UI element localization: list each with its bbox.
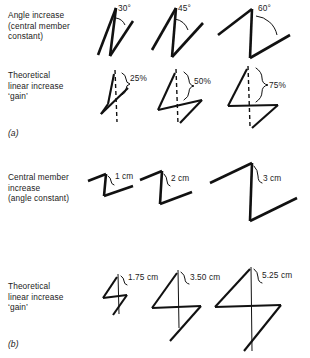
upper-arm-25 bbox=[108, 74, 114, 104]
cross-arm-50 bbox=[158, 100, 202, 110]
upper-arm-1cm bbox=[88, 174, 106, 181]
lower-arm-525cm bbox=[244, 305, 281, 351]
figure-label-member-3cm: 3 cm bbox=[263, 173, 281, 183]
upper-arm-2cm bbox=[140, 171, 162, 180]
lower-arm-25 bbox=[101, 88, 128, 114]
row-central-member-increase-figures bbox=[0, 155, 310, 240]
brace-175cm bbox=[121, 276, 127, 285]
central-member-1cm bbox=[104, 174, 106, 196]
figure-label-angle-45: 45° bbox=[178, 3, 191, 13]
reference-line-350cm bbox=[178, 270, 179, 328]
figure-angle-45 bbox=[152, 8, 203, 57]
figure-label-gain-25: 25% bbox=[130, 73, 147, 83]
lower-arm-75 bbox=[252, 105, 278, 128]
figure-gain-75 bbox=[228, 66, 278, 128]
cross-arm-350cm bbox=[152, 306, 201, 308]
brace-50 bbox=[184, 72, 194, 100]
lower-arm-60 bbox=[218, 9, 252, 35]
upper-arm-75 bbox=[228, 69, 247, 106]
figure-gain-25 bbox=[101, 70, 130, 122]
row-theoretical-gain-percent-figures bbox=[0, 64, 310, 124]
central-member-60 bbox=[250, 9, 252, 58]
brace-350cm bbox=[181, 272, 189, 284]
figure-label-member-1cm: 1 cm bbox=[115, 171, 133, 181]
upper-arm-50 bbox=[158, 73, 175, 110]
figure-label-angle-60: 60° bbox=[258, 3, 271, 13]
brace-2cm bbox=[164, 174, 170, 186]
figure-label-gain-75: 75% bbox=[269, 80, 286, 90]
cross-arm-175cm bbox=[103, 295, 127, 298]
lower-arm-1cm bbox=[104, 186, 133, 196]
central-member-3cm bbox=[250, 163, 252, 221]
central-member-2cm bbox=[160, 171, 162, 204]
figure-gain-175cm bbox=[103, 274, 127, 315]
upper-arm-3cm bbox=[210, 163, 252, 183]
lower-arm-175cm bbox=[113, 295, 127, 315]
figure-angle-30 bbox=[98, 8, 133, 56]
upper-arm-175cm bbox=[103, 277, 117, 298]
lower-arm-2cm bbox=[160, 192, 192, 204]
angle-arc-60 bbox=[256, 16, 277, 35]
caption-a: (a) bbox=[8, 128, 19, 138]
caption-b: (b) bbox=[8, 339, 19, 349]
figure-label-gain-50: 50% bbox=[194, 76, 211, 86]
brace-525cm bbox=[254, 269, 262, 283]
upper-arm-60 bbox=[250, 35, 290, 58]
figure-angle-60 bbox=[218, 9, 290, 58]
angle-arc-45 bbox=[175, 19, 188, 30]
figure-label-angle-30: 30° bbox=[118, 3, 131, 13]
brace-3cm bbox=[254, 166, 262, 183]
figure-label-gain-525cm: 5.25 cm bbox=[262, 270, 292, 280]
linkage-angle-gain-diagram: Angle increase (central member constant)… bbox=[0, 0, 310, 358]
cross-arm-525cm bbox=[215, 305, 281, 307]
figure-label-member-2cm: 2 cm bbox=[171, 173, 189, 183]
cross-arm-75 bbox=[228, 105, 278, 106]
reference-line-25 bbox=[115, 70, 117, 122]
upper-arm-525cm bbox=[215, 269, 250, 307]
figure-label-gain-350cm: 3.50 cm bbox=[190, 272, 220, 282]
brace-75 bbox=[256, 68, 268, 102]
angle-arc-30 bbox=[116, 18, 125, 25]
reference-line-525cm bbox=[251, 267, 252, 351]
reference-line-75 bbox=[248, 66, 250, 126]
lower-arm-3cm bbox=[250, 198, 297, 221]
figure-label-gain-175cm: 1.75 cm bbox=[128, 272, 158, 282]
brace-1cm bbox=[108, 176, 114, 185]
figure-member-3cm bbox=[210, 163, 297, 221]
lower-arm-350cm bbox=[170, 306, 201, 341]
reference-line-50 bbox=[176, 69, 178, 124]
